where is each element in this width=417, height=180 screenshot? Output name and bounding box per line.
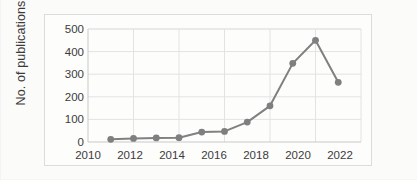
data-point-2014 bbox=[176, 134, 183, 141]
data-point-2021 bbox=[335, 79, 342, 86]
data-point-2013 bbox=[153, 135, 160, 142]
data-point-2020 bbox=[312, 37, 319, 44]
data-point-2018 bbox=[267, 102, 274, 109]
plot-area bbox=[0, 0, 417, 180]
data-point-2017 bbox=[244, 119, 251, 126]
data-point-2016 bbox=[221, 128, 228, 135]
data-point-2015 bbox=[198, 129, 205, 136]
data-point-2012 bbox=[130, 135, 137, 142]
data-point-2019 bbox=[289, 60, 296, 67]
data-point-2011 bbox=[107, 136, 114, 143]
publications-line-chart: No. of publications 500 400 300 200 100 … bbox=[0, 0, 417, 180]
